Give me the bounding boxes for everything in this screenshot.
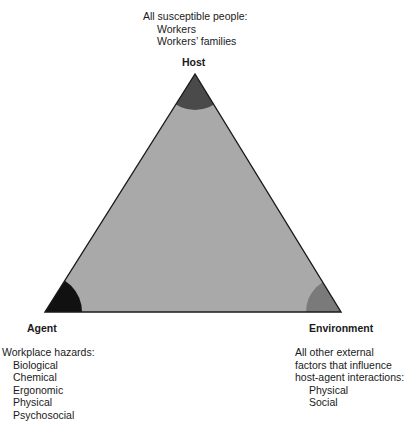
host-description-text: All susceptible people:	[143, 10, 247, 23]
host-description: All susceptible people: Workers Workers’…	[143, 10, 247, 48]
host-item-workers: Workers	[143, 23, 247, 36]
agent-item-psychosocial: Psychosocial	[2, 409, 95, 422]
agent-item-physical: Physical	[2, 396, 95, 409]
host-label: Host	[182, 56, 205, 69]
environment-description: All other external factors that influenc…	[295, 346, 404, 409]
agent-description-text: Workplace hazards:	[2, 346, 95, 359]
environment-description-line-1: All other external	[295, 346, 404, 359]
environment-item-physical: Physical	[295, 384, 404, 397]
agent-label: Agent	[27, 322, 57, 335]
environment-description-line-2: factors that influence	[295, 359, 404, 372]
environment-description-line-3: host-agent interactions:	[295, 371, 404, 384]
environment-label: Environment	[309, 322, 373, 335]
agent-description: Workplace hazards: Biological Chemical E…	[2, 346, 95, 421]
environment-item-social: Social	[295, 396, 404, 409]
agent-item-biological: Biological	[2, 359, 95, 372]
agent-item-chemical: Chemical	[2, 371, 95, 384]
host-item-families: Workers’ families	[143, 35, 247, 48]
agent-item-ergonomic: Ergonomic	[2, 384, 95, 397]
